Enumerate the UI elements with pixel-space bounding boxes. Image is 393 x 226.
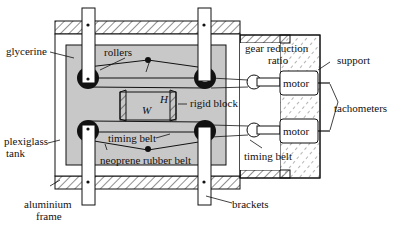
label-gear-reduction: gear reduction	[245, 42, 309, 54]
label-support: support	[337, 54, 370, 66]
label-brackets: brackets	[232, 198, 269, 210]
label-tachometers: tachometers	[334, 102, 387, 114]
label-neoprene: neoprene rubber belt	[100, 154, 191, 166]
label-aluminium: aluminium	[24, 198, 72, 210]
label-tank: tank	[6, 147, 25, 159]
label-H: H	[159, 93, 169, 105]
label-timing-belt-outer: timing belt	[244, 150, 292, 162]
label-glycerine: glycerine	[6, 45, 47, 57]
label-rigid-block: rigid block	[190, 97, 238, 109]
label-plexiglass: plexiglass	[4, 135, 48, 147]
label-gear-ratio: ratio	[268, 54, 289, 66]
label-rollers: rollers	[104, 46, 132, 58]
apparatus-diagram: glycerine rollers gear reduction ratio s…	[0, 0, 393, 226]
tension-roller-bottom	[145, 146, 151, 152]
label-frame: frame	[36, 210, 62, 222]
tension-roller-top	[145, 57, 151, 63]
label-motor-top: motor	[283, 77, 310, 89]
label-timing-belt-inner: timing belt	[108, 132, 156, 144]
label-motor-bottom: motor	[283, 125, 310, 137]
label-W: W	[142, 104, 152, 116]
